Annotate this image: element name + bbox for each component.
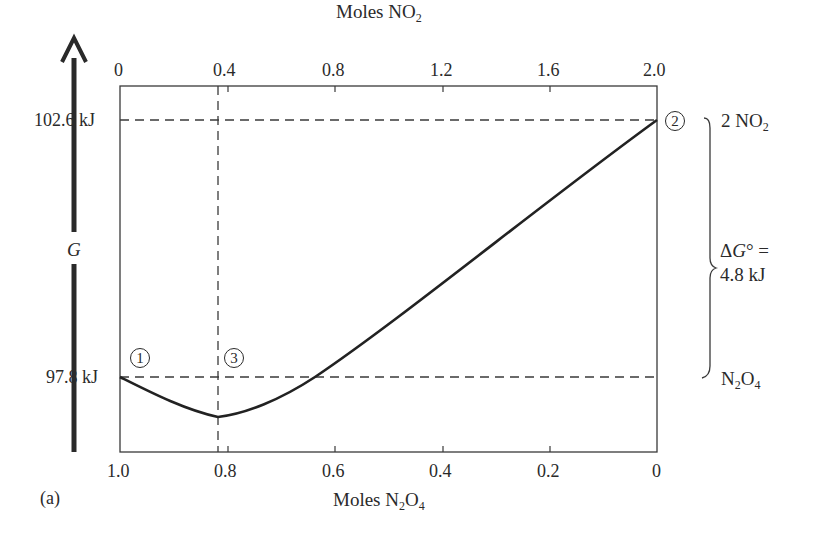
species-no2-label: 2 NO2 [721,111,769,130]
y-axis-label-g: G [67,240,81,259]
top-tick-4: 1.6 [537,61,560,79]
top-tick-0: 0 [114,61,123,79]
bottom-tick-4: 0.2 [537,462,560,480]
top-axis-title: Moles NO2 [336,2,422,21]
bottom-tick-3: 0.4 [429,462,452,480]
top-axis-ticks [228,86,550,92]
plot-frame [120,86,657,452]
delta-g-brace [702,118,716,378]
bottom-tick-2: 0.6 [322,462,345,480]
point-marker-3: 3 [224,348,244,368]
top-tick-2: 0.8 [322,61,345,79]
point-marker-1: 1 [130,348,150,368]
top-tick-1: 0.4 [213,61,236,79]
bottom-axis-ticks [228,446,550,452]
y-tick-102-6: 102.6 kJ [34,111,95,129]
bottom-tick-1: 0.8 [214,462,237,480]
point-marker-2: 2 [665,111,685,131]
panel-label: (a) [40,489,60,507]
chart-canvas [0,0,823,539]
delta-g-value: 4.8 kJ [720,265,765,284]
top-tick-5: 2.0 [643,61,666,79]
y-tick-97-8: 97.8 kJ [46,368,98,386]
delta-g-label: ΔG° = [720,241,769,260]
bottom-tick-0: 1.0 [107,462,130,480]
bottom-axis-title: Moles N2O4 [333,490,425,509]
species-n2o4-label: N2O4 [721,369,760,388]
top-tick-3: 1.2 [430,61,453,79]
gibbs-curve [120,120,657,417]
bottom-tick-5: 0 [652,462,661,480]
